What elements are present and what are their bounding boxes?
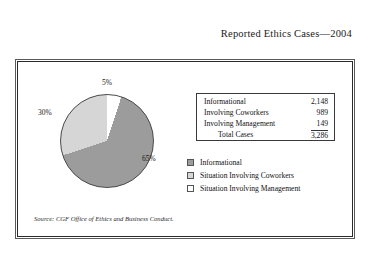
table-row-value: 2,148 — [304, 97, 328, 108]
table-total-row: Total Cases 3,286 — [204, 129, 328, 141]
pie-slices — [60, 94, 154, 188]
data-table: Informational 2,148 Involving Coworkers … — [196, 93, 335, 141]
table-row-label: Informational — [204, 97, 304, 108]
table-row-value: 149 — [304, 119, 328, 130]
pie-label-informational: 65% — [142, 154, 156, 163]
legend: Informational Situation Involving Cowork… — [187, 156, 300, 195]
table-row-value: 989 — [304, 108, 328, 119]
legend-item-label: Informational — [200, 158, 242, 167]
table-total-value-text: 3,286 — [311, 130, 328, 142]
table-total-label: Total Cases — [204, 129, 304, 141]
table-row: Informational 2,148 — [204, 97, 328, 108]
legend-item-management: Situation Involving Management — [187, 182, 300, 195]
legend-item-label: Situation Involving Coworkers — [200, 171, 294, 180]
pie-label-coworkers: 30% — [38, 108, 52, 117]
source-note: Source: CGF Office of Ethics and Busines… — [34, 215, 174, 222]
table-row: Involving Management 149 — [204, 119, 328, 130]
legend-swatch-icon — [187, 172, 194, 179]
table-row: Involving Coworkers 989 — [204, 108, 328, 119]
table-row-label: Involving Management — [204, 119, 304, 130]
legend-item-label: Situation Involving Management — [200, 184, 300, 193]
legend-item-informational: Informational — [187, 156, 300, 169]
chart-figure: Reported Ethics Cases—2004 5% 30% 65% In… — [0, 0, 369, 257]
table-total-value: 3,286 — [304, 129, 328, 141]
legend-swatch-icon — [187, 159, 194, 166]
pie-label-management: 5% — [102, 78, 112, 87]
pie-chart: 5% 30% 65% — [38, 78, 178, 196]
legend-swatch-icon — [187, 185, 194, 192]
figure-title: Reported Ethics Cases—2004 — [0, 28, 352, 39]
table-row-label: Involving Coworkers — [204, 108, 304, 119]
legend-item-coworkers: Situation Involving Coworkers — [187, 169, 300, 182]
